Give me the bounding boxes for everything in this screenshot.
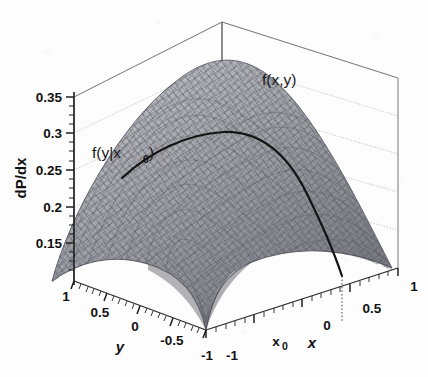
surface-plot: 0.35 0.3 0.25 0.2 0.15 dP/dx [0, 0, 428, 377]
y-tick-label-1: 0.5 [91, 305, 110, 320]
x0-tick-base: x [272, 334, 280, 349]
x0-tick-label: x 0 [272, 334, 288, 352]
x-tick-label-05: 0.5 [363, 301, 382, 316]
figure-root: 0.35 0.3 0.25 0.2 0.15 dP/dx [0, 0, 428, 377]
conditional-density-label-tail: ) [149, 144, 154, 161]
z-tick-label-3: 0.2 [43, 200, 62, 215]
x-axis-title: x [307, 334, 317, 351]
y-tick-label-4: -1 [201, 348, 213, 363]
joint-density-label: f(x,y) [262, 71, 296, 88]
x-tick-label-minus1: -1 [226, 348, 238, 363]
z-tick-label-4: 0.15 [36, 236, 63, 251]
z-axis-title: dP/dx [12, 157, 29, 198]
x0-tick-sub: 0 [282, 340, 288, 352]
z-tick-label-0: 0.35 [36, 90, 63, 105]
x-tick-label-0: 0 [323, 318, 331, 333]
conditional-density-label-base: f(y|x [92, 144, 121, 161]
joint-density-annotation: f(x,y) [262, 71, 296, 88]
x-tick-label-1: 1 [410, 279, 418, 294]
y-tick-label-3: -0.5 [160, 333, 184, 348]
y-tick-label-0: 1 [62, 289, 70, 304]
y-tick-label-2: 0 [131, 319, 139, 334]
z-tick-label-1: 0.3 [43, 126, 62, 141]
x-axis: -1 x 0 0 0.5 1 x [206, 268, 418, 363]
z-tick-label-2: 0.25 [36, 163, 63, 178]
y-axis-title: y [115, 338, 125, 355]
base-plane [74, 268, 398, 330]
